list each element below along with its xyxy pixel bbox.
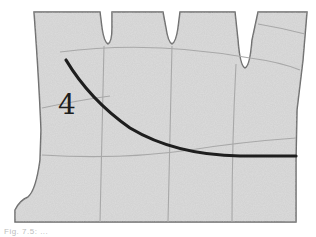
figure-label: 4 [58,88,76,121]
figure-caption: Fig. 7.5: ... [4,227,312,237]
palm-drawing-svg [0,0,316,237]
palm-illustration: 4 [0,0,316,237]
